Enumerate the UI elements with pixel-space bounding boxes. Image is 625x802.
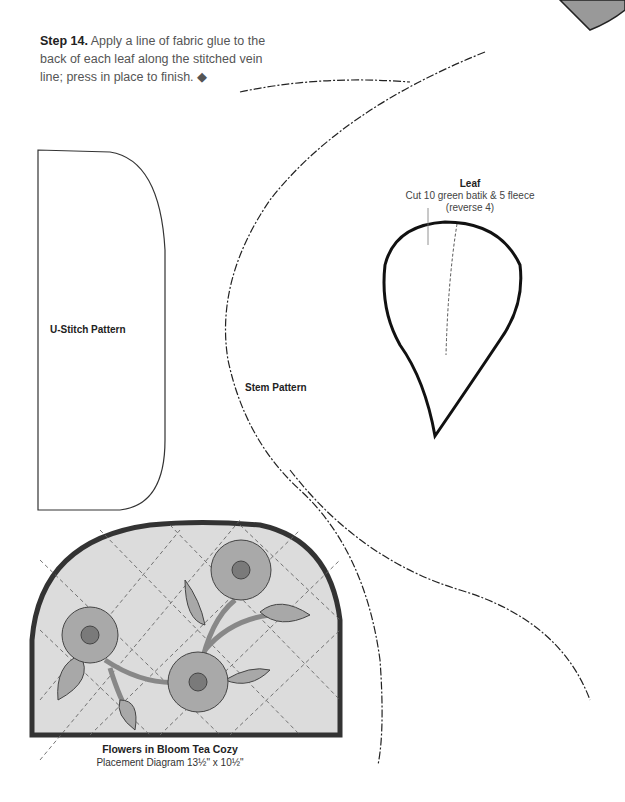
leaf-vein-line xyxy=(446,224,457,355)
step-14-instructions: Step 14. Apply a line of fabric glue to … xyxy=(40,32,270,86)
diagram-subtitle: Placement Diagram 13½" x 10½" xyxy=(20,756,320,770)
step-label: Step 14. xyxy=(40,34,88,48)
leaf-reverse-note: (reverse 4) xyxy=(380,202,560,214)
flower-bottom xyxy=(168,652,228,712)
stem-pattern-label: Stem Pattern xyxy=(245,382,307,393)
tea-cozy-diagram xyxy=(32,520,340,760)
leaf-title: Leaf xyxy=(380,178,560,190)
flower-left xyxy=(62,607,118,663)
flower-top xyxy=(211,540,271,600)
diagram-caption: Flowers in Bloom Tea Cozy Placement Diag… xyxy=(20,742,320,770)
corner-tab-shape xyxy=(560,0,625,30)
u-stitch-pattern-label: U-Stitch Pattern xyxy=(50,324,126,335)
leaf-cut-instructions: Cut 10 green batik & 5 fleece xyxy=(380,190,560,202)
diagram-title: Flowers in Bloom Tea Cozy xyxy=(20,742,320,756)
leaf-caption: Leaf Cut 10 green batik & 5 fleece (reve… xyxy=(380,178,560,214)
pattern-artwork xyxy=(0,0,625,802)
